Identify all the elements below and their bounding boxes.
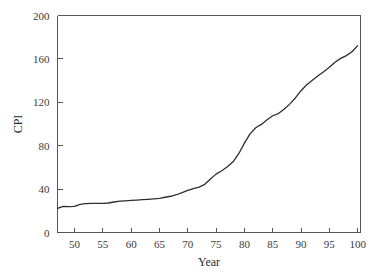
x-tick-label: 95 [324,238,336,250]
plot-frame [58,16,361,233]
chart-canvas: 04080120160200 50556065707580859095100 C… [0,0,378,276]
cpi-line-chart: 04080120160200 50556065707580859095100 C… [0,0,378,276]
y-tick-label: 120 [33,96,50,108]
x-axis-tick-labels: 50556065707580859095100 [69,238,366,250]
y-axis-tick-labels: 04080120160200 [33,10,50,239]
y-tick-label: 0 [44,227,50,239]
data-series-cpi [58,46,358,209]
x-axis-ticks [74,228,357,233]
y-tick-label: 160 [33,53,50,65]
x-tick-label: 85 [267,238,279,250]
x-tick-label: 70 [182,238,194,250]
y-axis-title: CPI [11,115,25,134]
x-tick-label: 55 [97,238,109,250]
x-tick-label: 50 [69,238,81,250]
y-axis-ticks [58,16,63,233]
x-tick-label: 90 [296,238,308,250]
x-tick-label: 100 [349,238,366,250]
x-axis-title: Year [198,255,220,269]
y-tick-label: 40 [39,183,51,195]
x-tick-label: 65 [154,238,166,250]
x-tick-label: 75 [211,238,223,250]
x-tick-label: 60 [126,238,138,250]
y-tick-label: 80 [39,140,51,152]
x-tick-label: 80 [239,238,251,250]
y-tick-label: 200 [33,10,50,22]
